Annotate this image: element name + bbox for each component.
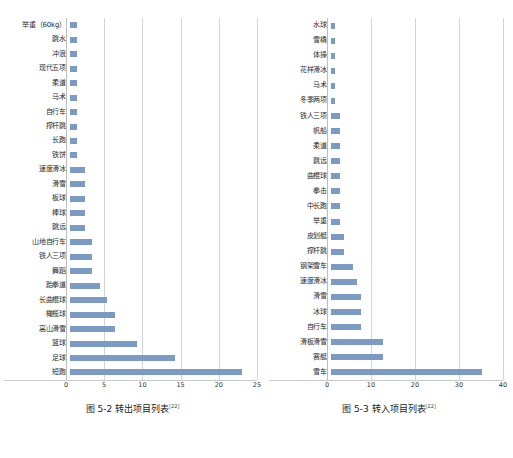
- bar: [331, 339, 383, 345]
- category-label: 钢架雪车: [269, 263, 331, 270]
- category-label: 曲棍球: [269, 173, 331, 180]
- bar: [331, 98, 335, 104]
- bar-track: [331, 365, 503, 380]
- bar: [70, 80, 77, 86]
- bar: [331, 219, 340, 225]
- category-label: 铁人三项: [269, 113, 331, 120]
- figures-container: 举重（60kg）跳水冲浪现代五项柔道马术自行车撑杆跳长跑铁饼速度滑冰滑雪板球棒球…: [0, 0, 513, 400]
- bar-track: [331, 93, 503, 108]
- x-axis-right: 010203040: [269, 380, 503, 394]
- bar-track: [331, 244, 503, 259]
- bar: [331, 188, 340, 194]
- category-label: 帆船: [269, 128, 331, 135]
- bar: [331, 68, 335, 74]
- category-label: 棒球: [4, 210, 70, 217]
- bar: [70, 326, 115, 332]
- bar-track: [70, 351, 257, 365]
- bar-track: [331, 139, 503, 154]
- bar-track: [331, 154, 503, 169]
- caption-figure-5-2: 图 5-2 转出项目列表[22]: [0, 402, 265, 415]
- chart-row: 铁人三项: [269, 108, 503, 123]
- chart-row: 棒球: [4, 206, 257, 220]
- bar: [331, 113, 340, 119]
- bar: [331, 83, 335, 89]
- chart-row: 滑板滑雪: [269, 335, 503, 350]
- bar-track: [331, 63, 503, 78]
- bar: [331, 309, 361, 315]
- chart-row: 柔道: [4, 76, 257, 90]
- bar: [331, 38, 335, 44]
- chart-row: 冰球: [269, 304, 503, 319]
- chart-row: 篮球: [4, 336, 257, 350]
- chart-row: 中长跑: [269, 199, 503, 214]
- chart-row: 自行车: [269, 320, 503, 335]
- category-label: 花样滑冰: [269, 67, 331, 74]
- bar-track: [70, 177, 257, 191]
- category-label: 速度滑冰: [269, 278, 331, 285]
- category-label: 现代五项: [4, 65, 70, 72]
- category-label: 柔道: [4, 80, 70, 87]
- category-label: 柔道: [269, 143, 331, 150]
- bar-track: [331, 350, 503, 365]
- bar: [70, 109, 77, 115]
- bar-track: [331, 304, 503, 319]
- bar-track: [70, 47, 257, 61]
- category-label: 冲浪: [4, 51, 70, 58]
- bar: [331, 324, 361, 330]
- bar: [70, 95, 77, 101]
- category-label: 中长跑: [269, 203, 331, 210]
- x-axis-ticks: 0510152025: [66, 380, 257, 394]
- chart-row: 举重（60kg）: [4, 18, 257, 32]
- bar: [70, 66, 77, 72]
- category-label: 铁饼: [4, 152, 70, 159]
- chart-row: 速度滑冰: [4, 163, 257, 177]
- bar: [70, 283, 100, 289]
- category-label: 体操: [269, 52, 331, 59]
- chart-row: 滑雪: [269, 289, 503, 304]
- bar: [70, 210, 85, 216]
- bar-track: [331, 18, 503, 33]
- category-label: 足球: [4, 355, 70, 362]
- chart-row: 赛艇: [269, 350, 503, 365]
- bar-track: [70, 105, 257, 119]
- chart-row: 滑雪: [4, 177, 257, 191]
- category-label: 板球: [4, 195, 70, 202]
- chart-row: 曲棍球: [269, 169, 503, 184]
- chart-row: 跳水: [4, 32, 257, 46]
- category-label: 滑雪: [4, 181, 70, 188]
- category-label: 跆拳道: [4, 282, 70, 289]
- bar-track: [70, 221, 257, 235]
- bar: [70, 22, 77, 28]
- gridline: [257, 18, 258, 380]
- chart-row: 拳击: [269, 184, 503, 199]
- bar-rows-right: 水球雪橇体操花样滑冰马术冬季两项铁人三项帆船柔道跳远曲棍球拳击中长跑举重皮划艇撑…: [269, 18, 503, 380]
- bar: [70, 51, 77, 57]
- bar-track: [70, 250, 257, 264]
- chart-row: 长跑: [4, 134, 257, 148]
- bar-track: [70, 192, 257, 206]
- bar-track: [331, 33, 503, 48]
- bar: [331, 53, 335, 59]
- bar-track: [70, 90, 257, 104]
- category-label: 短跑: [4, 369, 70, 376]
- figure-transfer-out: 举重（60kg）跳水冲浪现代五项柔道马术自行车撑杆跳长跑铁饼速度滑冰滑雪板球棒球…: [0, 0, 265, 400]
- category-label: 拳击: [269, 188, 331, 195]
- chart-row: 铁人三项: [4, 250, 257, 264]
- bar-track: [331, 214, 503, 229]
- bar: [331, 279, 357, 285]
- chart-row: 水球: [269, 18, 503, 33]
- chart-row: 雪车: [269, 365, 503, 380]
- bar-track: [70, 322, 257, 336]
- bar-track: [70, 307, 257, 321]
- bar-track: [331, 289, 503, 304]
- chart-row: 举重: [269, 214, 503, 229]
- category-label: 长跑: [4, 137, 70, 144]
- bar: [70, 369, 242, 375]
- chart-row: 跳远: [4, 221, 257, 235]
- bar: [70, 239, 92, 245]
- bar: [70, 167, 85, 173]
- category-label: 跳水: [4, 36, 70, 43]
- bar: [331, 143, 340, 149]
- bar-track: [70, 163, 257, 177]
- category-label: 跳远: [4, 224, 70, 231]
